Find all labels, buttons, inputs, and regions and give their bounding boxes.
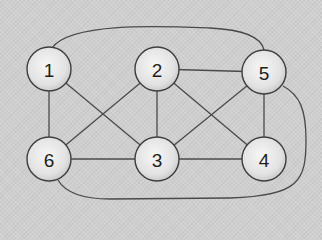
node-4: 4 (242, 137, 286, 181)
node-label: 5 (259, 63, 270, 84)
node-label: 3 (152, 150, 163, 171)
node-label: 6 (44, 150, 55, 171)
node-6: 6 (27, 137, 71, 181)
node-2: 2 (135, 47, 179, 91)
graph-diagram: 125634 (0, 0, 322, 204)
node-label: 1 (44, 60, 55, 81)
node-1: 1 (27, 47, 71, 91)
node-label: 2 (152, 60, 163, 81)
node-3: 3 (135, 137, 179, 181)
node-5: 5 (242, 50, 286, 94)
node-label: 4 (259, 150, 270, 171)
